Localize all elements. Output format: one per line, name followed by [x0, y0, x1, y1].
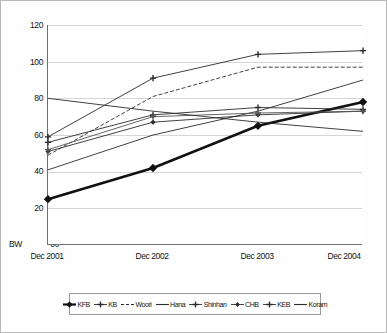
legend-label: CHB — [245, 301, 259, 308]
x-tick-label-4: Dec 2004 — [304, 251, 384, 261]
x-tick-label-3: Dec 2003 — [217, 251, 297, 261]
y-tick-label-120: 120 — [7, 20, 43, 30]
x-tick-label-2: Dec 2002 — [112, 251, 192, 261]
chart-figure: BW 00 20 40 60 80 100 120 Dec 2001 Dec 2… — [0, 0, 387, 333]
legend-label: KB — [108, 301, 117, 308]
y-tick-label-60: 60 — [7, 130, 43, 140]
legend-item-hana[interactable]: Hana — [156, 300, 186, 309]
legend-item-chb[interactable]: CHB — [231, 300, 259, 309]
y-tick-label-80: 80 — [7, 93, 43, 103]
data-point-marker — [150, 120, 155, 125]
data-point-marker — [255, 104, 261, 110]
legend-item-koram[interactable]: Koram — [294, 300, 327, 309]
y-tick-label-40: 40 — [7, 166, 43, 176]
legend-label: Koram — [308, 301, 327, 308]
plus-marker — [263, 300, 276, 309]
y-axis-unit-label: BW — [9, 239, 22, 249]
solid-line-marker — [294, 300, 307, 309]
diamond-marker — [231, 300, 244, 309]
chart-legend: KFBKBWooriHanaShinhanCHBKEBKoram — [69, 293, 321, 315]
legend-label: KEB — [277, 301, 290, 308]
legend-label: Hana — [170, 301, 185, 308]
series-hana — [48, 80, 363, 170]
data-point-marker — [150, 75, 156, 81]
x-tick-label-1: Dec 2001 — [7, 251, 87, 261]
legend-label: Shinhan — [204, 301, 227, 308]
data-point-marker — [44, 195, 52, 203]
dashed-line-marker — [121, 300, 134, 309]
data-point-marker — [359, 98, 367, 106]
legend-item-shinhan[interactable]: Shinhan — [189, 300, 226, 309]
diamond-thick-marker — [63, 300, 76, 309]
series-kfb — [44, 98, 367, 204]
solid-line-marker — [156, 300, 169, 309]
y-tick-label-100: 100 — [7, 57, 43, 67]
legend-label: KFB — [77, 301, 89, 308]
series-line — [48, 80, 363, 170]
legend-item-keb[interactable]: KEB — [263, 300, 290, 309]
y-tick-label-20: 20 — [7, 203, 43, 213]
data-point-marker — [255, 51, 261, 57]
data-point-marker — [45, 139, 51, 145]
data-point-marker — [254, 122, 262, 130]
legend-item-kb[interactable]: KB — [94, 300, 117, 309]
plus-marker — [94, 300, 107, 309]
series-layer — [48, 25, 363, 245]
legend-item-woori[interactable]: Woori — [121, 300, 152, 309]
data-point-marker — [149, 164, 157, 172]
legend-label: Woori — [135, 301, 151, 308]
series-line — [48, 111, 363, 151]
legend-item-kfb[interactable]: KFB — [63, 300, 90, 309]
data-point-marker — [360, 48, 366, 54]
plus-marker — [189, 300, 202, 309]
data-point-marker — [45, 134, 51, 140]
plot-area — [47, 25, 362, 245]
